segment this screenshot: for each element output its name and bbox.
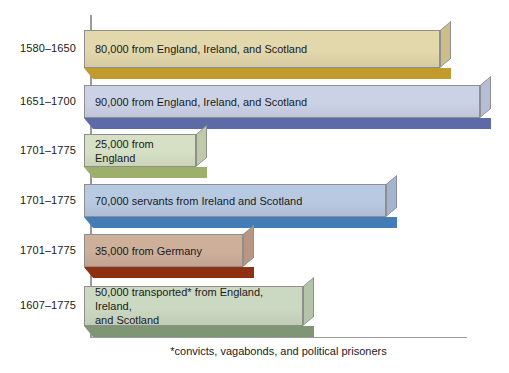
horizontal-axis-line: [90, 337, 467, 338]
bar-front-face: 90,000 from England, Ireland, and Scotla…: [84, 85, 480, 118]
bar-front-face: 25,000 from England: [84, 134, 196, 167]
bar-bottom-face: [84, 68, 451, 79]
bar: 80,000 from England, Ireland, and Scotla…: [84, 30, 440, 79]
bar-front-face: 50,000 transported* from England, Irelan…: [84, 286, 303, 326]
bar-year-label: 1701–1775: [0, 194, 76, 206]
bar-value-label: 70,000 servants from Ireland and Scotlan…: [85, 194, 310, 208]
bar-side-face: [480, 76, 491, 118]
chart-footnote: *convicts, vagabonds, and political pris…: [90, 345, 467, 357]
bar-value-label: 25,000 from England: [85, 137, 195, 165]
bar: 50,000 transported* from England, Irelan…: [84, 286, 303, 337]
bar-bottom-face: [84, 167, 207, 178]
bar-side-face: [386, 175, 397, 217]
bar: 25,000 from England: [84, 134, 196, 178]
bar-value-label: 35,000 from Germany: [85, 244, 210, 258]
bar-year-label: 1701–1775: [0, 144, 76, 156]
bar-value-label: 90,000 from England, Ireland, and Scotla…: [85, 95, 315, 109]
bar-year-label: 1701–1775: [0, 244, 76, 256]
bar-side-face: [196, 125, 207, 167]
bar: 70,000 servants from Ireland and Scotlan…: [84, 184, 386, 228]
bar-bottom-face: [84, 217, 397, 228]
bar-front-face: 80,000 from England, Ireland, and Scotla…: [84, 30, 440, 68]
bar-value-label: 50,000 transported* from England, Irelan…: [85, 285, 302, 327]
bar: 35,000 from Germany: [84, 234, 243, 278]
bar-bottom-face: [84, 326, 314, 337]
bar-side-face: [243, 225, 254, 267]
bar-bottom-face: [84, 267, 254, 278]
bar-side-face: [440, 21, 451, 68]
bar-side-face: [303, 277, 314, 326]
bar-year-label: 1607–1775: [0, 299, 76, 311]
immigration-bar-chart: 1580–165080,000 from England, Ireland, a…: [0, 0, 509, 373]
bar-front-face: 70,000 servants from Ireland and Scotlan…: [84, 184, 386, 217]
bar-year-label: 1651–1700: [0, 95, 76, 107]
bar-value-label: 80,000 from England, Ireland, and Scotla…: [85, 42, 315, 56]
bar-bottom-face: [84, 118, 491, 129]
bar: 90,000 from England, Ireland, and Scotla…: [84, 85, 480, 129]
bar-year-label: 1580–1650: [0, 42, 76, 54]
bar-front-face: 35,000 from Germany: [84, 234, 243, 267]
